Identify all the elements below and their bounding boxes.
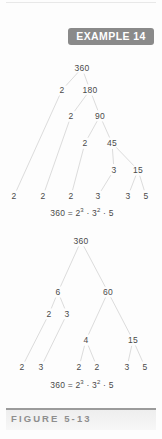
tree-node: 2 xyxy=(60,85,65,95)
top-rule xyxy=(6,2,156,3)
factor-tree-1-equation: 360 = 23 · 32 · 5 xyxy=(50,208,113,218)
tree-node: 6 xyxy=(56,287,61,297)
tree-node: 3 xyxy=(65,309,70,319)
tree-node: 60 xyxy=(103,287,113,297)
tree-node: 2 xyxy=(77,362,82,372)
tree-node: 360 xyxy=(74,236,89,246)
figure-page: EXAMPLE 14 3602180290245315222335 360 = … xyxy=(0,0,162,439)
tree-node: 2 xyxy=(12,191,17,201)
tree-node: 2 xyxy=(95,362,100,372)
tree-node: 360 xyxy=(75,63,90,73)
tree-node: 15 xyxy=(133,165,143,175)
tree-node: 2 xyxy=(20,362,25,372)
tree-node: 180 xyxy=(83,85,98,95)
tree-node: 3 xyxy=(96,191,101,201)
figure-caption: FIGURE 5-13 xyxy=(11,413,92,424)
tree-node: 15 xyxy=(128,335,138,345)
tree-node: 5 xyxy=(143,362,148,372)
tree-node: 3 xyxy=(39,362,44,372)
tree-node: 3 xyxy=(125,362,130,372)
tree-node: 5 xyxy=(144,191,149,201)
example-badge: EXAMPLE 14 xyxy=(68,28,154,45)
tree-node: 2 xyxy=(41,191,46,201)
tree-node: 2 xyxy=(69,191,74,201)
tree-node: 2 xyxy=(69,111,74,121)
factor-tree-2-equation: 360 = 23 · 32 · 5 xyxy=(50,380,113,390)
tree-node: 4 xyxy=(84,335,89,345)
tree-node: 45 xyxy=(107,138,117,148)
tree-node: 3 xyxy=(112,165,117,175)
tree-node: 3 xyxy=(126,191,131,201)
caption-rule xyxy=(6,408,156,410)
tree-node: 2 xyxy=(47,309,52,319)
tree-node: 90 xyxy=(95,111,105,121)
tree-node: 2 xyxy=(83,138,88,148)
